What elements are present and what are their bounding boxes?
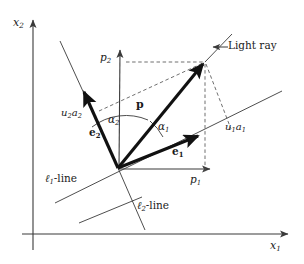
axis-label-p2: p2	[100, 52, 111, 65]
axis-label-p1: p1	[190, 174, 201, 187]
vector-label-u1a1: u1a1	[225, 122, 246, 133]
line-label-l2: ℓ2-line	[137, 200, 169, 213]
axis-label-x1: x1	[270, 240, 281, 252]
angle-label-alpha2: α2	[108, 114, 120, 127]
axis-p2	[119, 50, 120, 168]
light-ray-annotation: Light ray	[228, 40, 277, 51]
vector-label-e1: e1	[172, 146, 184, 159]
light-ray-vector-diagram: x2 x1 p2 p1 p e1 e2 u1a1 u2a2 α1 α2 ℓ1-l…	[0, 0, 304, 264]
angle-label-alpha1: α1	[158, 121, 170, 134]
line-label-l1: ℓ1-line	[45, 173, 77, 186]
vector-label-u2a2: u2a2	[61, 108, 82, 119]
vector-label-e2: e2	[89, 127, 101, 140]
vector-label-p: p	[136, 99, 144, 110]
axis-label-x2: x2	[13, 17, 24, 29]
